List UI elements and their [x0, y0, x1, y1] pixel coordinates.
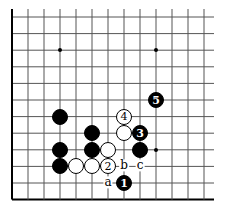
black-stone-move-3: 3 [132, 125, 148, 141]
star-point [154, 148, 158, 152]
white-stone [116, 125, 132, 141]
point-label-a: a [103, 176, 112, 188]
white-stone-move-4: 4 [116, 109, 132, 125]
black-stone [132, 142, 148, 158]
black-stone [52, 142, 68, 158]
go-board-diagram: bca45321 [0, 0, 225, 210]
star-point [154, 48, 158, 52]
white-stone [68, 158, 84, 174]
black-stone [84, 142, 100, 158]
white-stone [84, 158, 100, 174]
black-stone [84, 125, 100, 141]
black-stone-move-5: 5 [148, 92, 164, 108]
white-stone-move-2: 2 [100, 158, 116, 174]
point-label-c: c [136, 160, 145, 172]
black-stone [52, 109, 68, 125]
star-point [58, 48, 62, 52]
white-stone [100, 142, 116, 158]
point-label-b: b [119, 160, 129, 172]
black-stone-move-1: 1 [116, 175, 132, 191]
black-stone [52, 158, 68, 174]
